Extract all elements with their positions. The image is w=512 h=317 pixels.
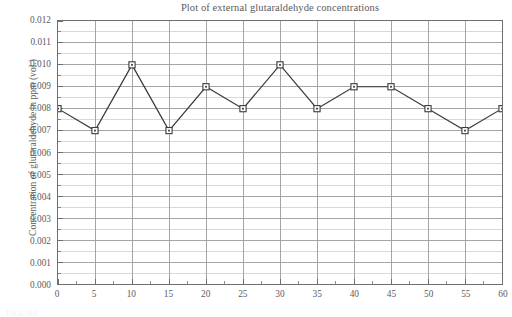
y-tick-label: 0.004 [5,192,51,202]
y-tick-label: 0.005 [5,170,51,180]
x-tick-label: 10 [111,289,151,299]
x-tick-label: 5 [74,289,114,299]
data-point-center [279,64,281,66]
x-tick-label: 60 [483,289,512,299]
x-axis-tick-labels: 051015202530354045505560 [57,289,503,303]
y-tick-label: 0.010 [5,59,51,69]
x-tick-label: 15 [149,289,189,299]
data-point-center [464,130,466,132]
data-point-center [131,64,133,66]
data-point-center [427,108,429,110]
x-tick-label: 25 [223,289,263,299]
chart-title: Plot of external glutaraldehyde concentr… [57,2,503,13]
x-tick-label: 45 [372,289,412,299]
y-tick-label: 0.009 [5,81,51,91]
data-point-center [58,108,59,110]
x-tick-label: 0 [37,289,77,299]
x-tick-label: 40 [334,289,374,299]
y-tick-label: 0.003 [5,214,51,224]
data-point-center [242,108,244,110]
y-tick-label: 0.012 [5,15,51,25]
data-point-center [94,130,96,132]
data-point-center [168,130,170,132]
x-tick-label: 50 [409,289,449,299]
data-point-center [316,108,318,110]
y-tick-label: 0.007 [5,125,51,135]
plot-area [57,20,503,285]
data-point-center [353,86,355,88]
data-point-center [205,86,207,88]
x-tick-label: 55 [446,289,486,299]
x-tick-label: 35 [297,289,337,299]
y-tick-label: 0.002 [5,236,51,246]
y-tick-label: 0.008 [5,103,51,113]
data-series-layer [58,21,502,284]
data-point-center [501,108,502,110]
y-tick-label: 0.011 [5,37,51,47]
x-tick-label: 30 [260,289,300,299]
data-point-center [390,86,392,88]
cropped-caption: FIGURE [6,308,306,317]
x-tick-label: 20 [186,289,226,299]
y-tick-label: 0.001 [5,258,51,268]
chart-figure: Plot of external glutaraldehyde concentr… [0,0,512,317]
y-tick-label: 0.006 [5,148,51,158]
y-axis-tick-labels: 0.0000.0010.0020.0030.0040.0050.0060.007… [3,20,51,285]
